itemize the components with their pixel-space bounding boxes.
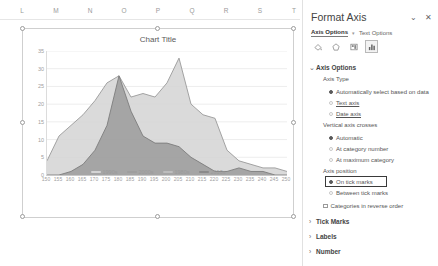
legend-swatch [199, 171, 209, 173]
column-header-s[interactable]: S [245, 7, 275, 14]
plot-area[interactable] [46, 51, 287, 176]
size-properties-icon[interactable] [347, 40, 360, 53]
section-tick-marks[interactable]: ›Tick Marks [309, 218, 349, 225]
column-header-n[interactable]: N [75, 7, 105, 14]
column-header-l[interactable]: L [7, 7, 37, 14]
radio-indicator [329, 180, 333, 184]
radio-date-axis[interactable]: Date axis [329, 111, 361, 117]
column-header-o[interactable]: O [109, 7, 139, 14]
close-icon[interactable]: ✕ [425, 13, 432, 22]
radio-label: Between tick marks [336, 190, 388, 196]
column-header-r[interactable]: R [211, 7, 241, 14]
radio-label: Date axis [336, 111, 361, 117]
radio-indicator [329, 158, 333, 162]
fill-glyph [313, 42, 323, 52]
selection-handle-bottom-center[interactable] [155, 214, 160, 219]
selection-handle-middle-left[interactable] [20, 120, 25, 125]
section-axis-options-marker: ⌄ [309, 64, 316, 72]
selection-handle-middle-right[interactable] [291, 120, 296, 125]
radio-indicator [329, 90, 333, 94]
y-axis-tick-labels: 05101520253035 [31, 51, 45, 175]
radio-at-category-number[interactable]: At category number [329, 146, 388, 152]
radio-label: On tick marks [336, 179, 373, 185]
section-labels-label: Labels [316, 233, 337, 240]
section-labels-marker: › [309, 233, 316, 240]
axis-options-glyph [367, 42, 377, 52]
section-labels[interactable]: ›Labels [309, 233, 337, 240]
area-chart-svg [47, 51, 287, 175]
radio-label: Automatic [336, 135, 363, 141]
y-tick-5: 5 [41, 154, 44, 160]
y-tick-30: 30 [38, 66, 44, 72]
checkbox-indicator [323, 204, 328, 209]
x-axis-tick-labels: 1501551601651701751801851901952002052102… [46, 176, 286, 185]
section-axis-options-label: Axis Options [316, 64, 356, 71]
column-header-p[interactable]: P [143, 7, 173, 14]
radio-label: At maximum category [336, 157, 394, 163]
effects-glyph [331, 42, 341, 52]
column-header-row: LMNOPQRST [0, 6, 300, 20]
effects-icon[interactable] [329, 40, 342, 53]
selection-handle-bottom-left[interactable] [20, 214, 25, 219]
column-header-m[interactable]: M [41, 7, 71, 14]
y-tick-15: 15 [38, 119, 44, 125]
selection-handle-top-center[interactable] [155, 26, 160, 31]
legend-item-2000s[interactable]: 2000s [127, 169, 154, 175]
excel-chart-format-screen: LMNOPQRST Chart Title 05101520253035 [0, 0, 438, 266]
pane-icon-bar [311, 40, 378, 53]
section-tick-marks-label: Tick Marks [316, 218, 349, 225]
radio-indicator [329, 112, 333, 116]
legend-item-1990s[interactable]: 1990s [91, 169, 118, 175]
column-header-q[interactable]: Q [177, 7, 207, 14]
selection-handle-top-left[interactable] [20, 26, 25, 31]
axis-type-label: Axis Type [323, 76, 349, 82]
radio-label: Text axis [336, 100, 359, 106]
section-axis-options[interactable]: ⌄Axis Options [309, 64, 356, 72]
section-tick-marks-marker: › [309, 218, 316, 225]
pane-tabs: Axis Options ▾ Text Options [311, 29, 392, 37]
legend-swatch [127, 171, 137, 173]
radio-automatic[interactable]: Automatic [329, 135, 363, 141]
y-tick-20: 20 [38, 101, 44, 107]
section-number-label: Number [316, 248, 341, 255]
section-number-marker: › [309, 248, 316, 255]
worksheet-area: LMNOPQRST Chart Title 05101520253035 [0, 0, 300, 266]
radio-text-axis[interactable]: Text axis [329, 100, 359, 106]
radio-automatically-select-based-on-data[interactable]: Automatically select based on data [329, 89, 429, 95]
selection-handle-top-right[interactable] [291, 26, 296, 31]
radio-indicator [329, 101, 333, 105]
legend-label: 1990s [103, 169, 118, 175]
section-number[interactable]: ›Number [309, 248, 341, 255]
chart-title[interactable]: Chart Title [23, 35, 293, 44]
chart-legend[interactable]: 1990s2000s1980s2010s [23, 167, 293, 177]
chart-object[interactable]: Chart Title 05101520253035 1501551601651… [22, 28, 294, 218]
selection-handle-bottom-right[interactable] [291, 214, 296, 219]
radio-on-tick-marks[interactable]: On tick marks [329, 179, 373, 185]
axis-position-label: Axis position [323, 168, 357, 174]
legend-label: 1980s [175, 169, 190, 175]
legend-swatch [91, 171, 101, 173]
pane-collapse-icon[interactable]: ⌄ [410, 13, 417, 22]
radio-indicator [329, 147, 333, 151]
checkbox-categories-in-reverse-order[interactable]: Categories in reverse order [323, 203, 403, 209]
tab-text-options[interactable]: Text Options [359, 30, 392, 36]
pane-title: Format Axis [311, 11, 366, 23]
legend-item-1980s[interactable]: 1980s [163, 169, 190, 175]
chevron-down-icon[interactable]: ▾ [352, 30, 355, 36]
y-tick-10: 10 [38, 137, 44, 143]
radio-at-maximum-category[interactable]: At maximum category [329, 157, 394, 163]
tab-axis-options[interactable]: Axis Options [311, 29, 348, 37]
radio-label: Automatically select based on data [336, 89, 429, 95]
legend-item-2010s[interactable]: 2010s [199, 169, 226, 175]
legend-swatch [163, 171, 173, 173]
y-tick-35: 35 [38, 48, 44, 54]
size-properties-glyph [349, 42, 359, 52]
radio-indicator [329, 191, 333, 195]
checkbox-label: Categories in reverse order [331, 203, 404, 209]
radio-between-tick-marks[interactable]: Between tick marks [329, 190, 388, 196]
radio-label: At category number [336, 146, 388, 152]
radio-indicator [329, 136, 333, 140]
axis-options-icon[interactable] [365, 40, 378, 53]
fill-icon[interactable] [311, 40, 324, 53]
legend-label: 2010s [211, 169, 226, 175]
